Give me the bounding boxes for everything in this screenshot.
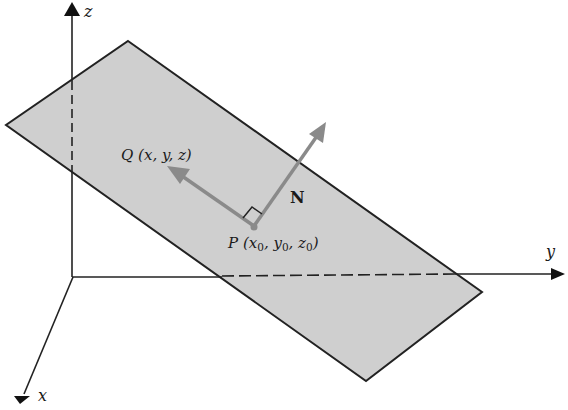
x-axis-label: x xyxy=(38,388,47,404)
x-axis-arrowhead xyxy=(14,396,30,404)
z-axis-arrowhead xyxy=(64,2,80,16)
point-q-coords: (x, y, z) xyxy=(138,146,192,164)
plane-diagram xyxy=(0,0,568,410)
normal-vector-arrowhead xyxy=(309,122,326,143)
x-axis xyxy=(24,277,73,394)
point-p-name: P xyxy=(228,234,238,252)
point-p-dot xyxy=(251,224,258,231)
y-axis-arrowhead xyxy=(551,268,565,280)
point-p-label: P (x0, y0, z0) xyxy=(228,236,319,252)
point-p-coords: (x0, y0, z0) xyxy=(243,234,319,252)
plane xyxy=(6,41,482,381)
point-q-name: Q xyxy=(121,146,133,164)
normal-vector-label: N xyxy=(290,190,305,206)
y-axis-label: y xyxy=(546,244,555,260)
point-q-label: Q (x, y, z) xyxy=(121,148,192,163)
z-axis-label: z xyxy=(84,4,92,20)
